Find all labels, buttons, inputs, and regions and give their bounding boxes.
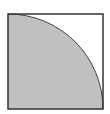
diagram-canvas (0, 0, 110, 114)
